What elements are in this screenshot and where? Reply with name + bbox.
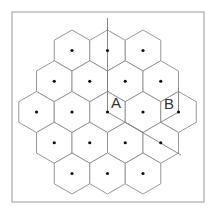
cell-label-b: B	[164, 95, 174, 112]
hexagonal-cell-diagram: A B	[0, 0, 214, 211]
cell-center-dot	[106, 172, 109, 175]
cell-center-dot	[141, 172, 144, 175]
cell-center-dot	[88, 80, 91, 83]
cell-center-dot	[70, 172, 73, 175]
cell-center-dot	[70, 110, 73, 113]
cell-center-dot-a	[106, 110, 109, 113]
cell-center-dot	[141, 49, 144, 52]
cell-center-dot-b	[177, 110, 180, 113]
cell-center-dot	[53, 80, 56, 83]
cell-center-dot	[124, 141, 127, 144]
cell-label-a: A	[111, 94, 121, 111]
cell-center-dot	[53, 141, 56, 144]
cell-center-dot	[70, 49, 73, 52]
cell-center-dot	[35, 110, 38, 113]
cell-center-dot	[159, 141, 162, 144]
cell-center-dot	[159, 80, 162, 83]
cell-center-dot	[141, 110, 144, 113]
cell-center-dot	[124, 80, 127, 83]
cell-center-dot	[88, 141, 91, 144]
cell-center-dot	[106, 49, 109, 52]
